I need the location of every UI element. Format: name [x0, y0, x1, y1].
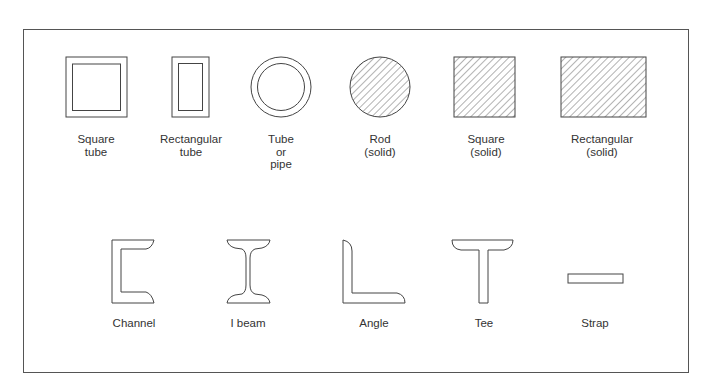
i-beam-icon	[227, 240, 270, 303]
rod-solid-icon	[350, 57, 410, 117]
label-angle: Angle	[319, 317, 429, 330]
strap-icon	[568, 274, 623, 283]
rectangular-tube-icon	[172, 57, 209, 117]
channel-icon	[112, 240, 154, 303]
label-strap: Strap	[540, 317, 650, 330]
angle-icon	[343, 240, 405, 303]
shapes-canvas	[0, 0, 714, 389]
label-square-solid: Square (solid)	[431, 133, 541, 158]
label-channel: Channel	[79, 317, 189, 330]
square-solid-icon	[454, 57, 515, 117]
label-rod-solid: Rod (solid)	[325, 133, 435, 158]
tube-or-pipe-icon	[251, 57, 311, 117]
label-tube-or-pipe: Tube or pipe	[226, 133, 336, 171]
label-i-beam: I beam	[193, 317, 303, 330]
tee-icon	[452, 240, 513, 303]
label-tee: Tee	[429, 317, 539, 330]
label-rectangular-solid: Rectangular (solid)	[547, 133, 657, 158]
square-tube-icon	[66, 57, 127, 117]
label-square-tube: Square tube	[41, 133, 151, 158]
rectangular-solid-icon	[561, 57, 646, 117]
